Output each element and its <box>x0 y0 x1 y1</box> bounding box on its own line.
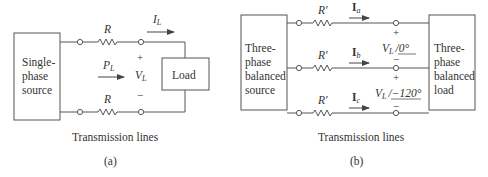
current-c-label: Ic <box>352 91 360 105</box>
load-label-line2: phase <box>434 56 460 69</box>
plus-sign: + <box>393 26 399 38</box>
transmission-lines-caption: Transmission lines <box>72 131 159 143</box>
node-terminal <box>77 109 82 114</box>
resistor-top <box>98 39 117 45</box>
resistor-b <box>313 65 332 71</box>
node-terminal <box>296 65 301 70</box>
node-terminal <box>296 20 301 25</box>
source-label-line1: Single- <box>22 56 55 69</box>
resistor-a <box>313 20 332 26</box>
source-label-line2: phase <box>245 56 271 69</box>
source-label-line3: balanced <box>245 70 286 82</box>
load-label-line1: Three- <box>434 42 465 54</box>
current-a-label: Ia <box>352 1 360 15</box>
load-label-line3: balanced <box>434 70 475 82</box>
plus-sign: + <box>393 71 399 83</box>
resistor-bottom <box>98 109 117 115</box>
panel-caption-b: (b) <box>350 155 364 168</box>
source-label-line4: source <box>245 84 275 96</box>
panel-caption-a: (a) <box>104 155 117 168</box>
resistor-a-label: R′ <box>317 4 328 16</box>
source-label-line1: Three- <box>245 42 276 54</box>
resistor-top-label: R <box>103 23 111 35</box>
power-label: PL <box>102 59 115 73</box>
diagram-b: Three- phase balanced source Three- phas… <box>241 1 475 168</box>
minus-sign: − <box>137 89 143 101</box>
node-terminal <box>393 110 398 115</box>
resistor-bottom-label: R <box>103 93 111 105</box>
current-label: IL <box>152 13 162 27</box>
node-terminal <box>138 39 143 44</box>
node-terminal <box>393 20 398 25</box>
circuit-diagrams: Single- phase source R R Load IL PL + <box>0 0 488 177</box>
minus-sign: − <box>393 53 399 65</box>
node-terminal <box>77 39 82 44</box>
resistor-c <box>313 110 332 116</box>
voltage-label: VL <box>135 69 147 83</box>
diagram-a: Single- phase source R R Load IL PL + <box>14 13 209 168</box>
plus-sign: + <box>137 51 143 63</box>
node-terminal <box>393 65 398 70</box>
load-label-line4: load <box>434 84 454 96</box>
source-label-line3: source <box>22 84 52 96</box>
resistor-b-label: R′ <box>317 49 328 61</box>
node-terminal <box>138 109 143 114</box>
load-label: Load <box>172 69 196 81</box>
resistor-c-label: R′ <box>317 94 328 106</box>
current-b-label: Ib <box>352 46 360 60</box>
transmission-lines-caption: Transmission lines <box>318 131 405 143</box>
source-label-line2: phase <box>22 70 48 83</box>
node-terminal <box>296 110 301 115</box>
